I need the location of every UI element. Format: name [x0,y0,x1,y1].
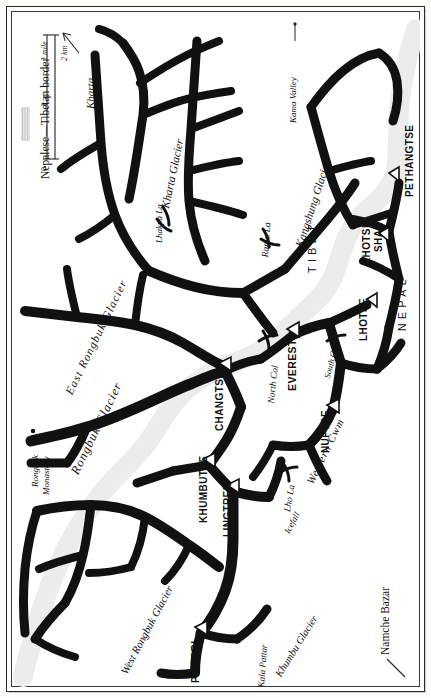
place-label-rongbuk-monastery-line2: Monastery [42,457,51,496]
scale-tick-km-0: 0 [61,167,69,171]
peak-label-lhotse-shar-line1: LHOTSE [362,221,373,264]
peak-label-everest: EVEREST [287,339,298,391]
peak-label-pumori: PUMORI [191,641,202,683]
peak-label-lhotse-shar-line2: SHAR [374,222,385,252]
place-label-rongbuk-monastery-line1: Rongbuk [31,455,40,487]
map-canvas: Nepalese—Tibetan border 0 1 1 mile 0 2 k… [11,11,420,687]
kama-valley-leader [294,23,296,41]
feature-label-kama-valley: Kama Valley [289,77,298,123]
place-label-kharta: Kharta [85,78,97,109]
pass-label-lhakpa-la: Lhakpa La [155,204,164,243]
peak-label-khumbutse: KHUMBUTSE [199,456,210,524]
legend-border-label: Nepalese—Tibetan border [39,58,51,179]
scale-unit-miles: 1 mile [41,41,49,61]
legend-graphics-layer [11,11,420,687]
border-legend-swatch [21,107,30,141]
rongbuk-monastery-dot [31,429,35,433]
namche-bazar-leader [387,659,405,677]
scale-unit-km: 2 km [61,46,69,61]
scale-tick-miles-0: 0 [41,167,49,171]
peak-label-pethangtse: PETHANGTSE [405,125,416,197]
peak-label-lingtren: LINGTREN [223,483,234,537]
scale-tick-miles-1: 1 [41,103,49,107]
peak-label-changtse: CHANGTSE [215,372,226,431]
map-figure: Nepalese—Tibetan border 0 1 1 mile 0 2 k… [0,0,431,698]
peak-label-lhotse: LHOTSE [359,298,370,341]
country-label-nepal: NEPAL [397,275,408,331]
place-label-namche-bazar: Namche Bazar [379,587,391,655]
